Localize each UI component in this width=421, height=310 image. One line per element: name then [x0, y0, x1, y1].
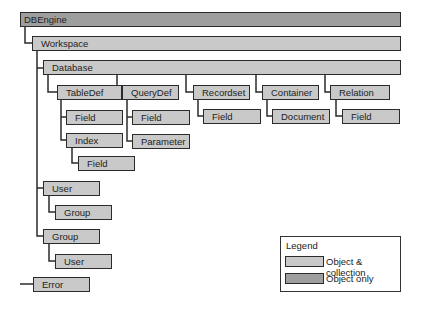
- legend-label-object-only: Object only: [326, 273, 374, 284]
- node-document: Document: [272, 109, 330, 124]
- node-parameter: Parameter: [132, 134, 190, 149]
- node-user: User: [43, 181, 100, 196]
- node-dbengine: DBEngine: [20, 12, 401, 27]
- node-workspace: Workspace: [32, 36, 401, 51]
- dao-hierarchy-diagram: DBEngine Workspace Database TableDef Fie…: [0, 0, 421, 310]
- connector-database-recordset: [186, 75, 193, 92]
- legend-swatch-object-only: [285, 273, 324, 284]
- node-tabledef-field: Field: [66, 110, 123, 125]
- node-group: Group: [43, 229, 100, 244]
- connector-dbengine-workspace: [25, 27, 32, 43]
- node-relation: Relation: [330, 85, 390, 100]
- node-recordset-field: Field: [203, 109, 261, 124]
- node-querydef: QueryDef: [122, 85, 179, 100]
- legend-swatch-object-collection: [285, 256, 324, 267]
- node-tabledef: TableDef: [57, 85, 122, 100]
- node-group-user: User: [55, 254, 112, 269]
- node-index: Index: [66, 133, 123, 148]
- node-recordset: Recordset: [193, 85, 250, 100]
- node-relation-field: Field: [342, 109, 400, 124]
- node-index-field: Field: [78, 156, 135, 171]
- node-database: Database: [43, 60, 401, 75]
- legend: Legend Object & collection Object only: [280, 236, 401, 292]
- node-container: Container: [262, 85, 319, 100]
- connector-workspace-trunk: [37, 50, 43, 236]
- node-user-group: Group: [55, 205, 112, 220]
- node-error: Error: [33, 277, 90, 292]
- connector-database-tabledef: [48, 75, 57, 92]
- node-querydef-field: Field: [132, 110, 190, 125]
- legend-title: Legend: [286, 240, 318, 251]
